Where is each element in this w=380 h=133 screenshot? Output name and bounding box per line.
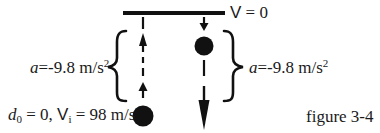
left-acceleration-label: a=-9.8 m/s2 [30,59,109,76]
figure-caption: figure 3-4 [306,108,374,125]
velocity-symbol: V [230,3,241,22]
acceleration-value: =-9.8 m/s [39,58,104,77]
left-brace-icon [108,31,126,101]
right-acceleration-label: a=-9.8 m/s2 [249,59,328,76]
acceleration-symbol: a [249,58,258,77]
velocity-value: = 0 [246,3,268,22]
initial-velocity-symbol: V [57,105,68,124]
initial-velocity-value: = 98 m/s [76,105,136,124]
acceleration-value: =-9.8 m/s [258,58,323,77]
displacement-symbol: d [8,105,17,124]
acceleration-symbol: a [30,58,39,77]
ball-at-launch [133,106,154,127]
figure-3-4-diagram: V = 0 a=-9.8 m/s2 a=-9.8 m/s2 d0 = 0, Vi… [0,0,380,133]
acceleration-exponent: 2 [323,57,329,69]
upward-path [139,17,148,98]
downward-path [199,17,210,130]
initial-velocity-subscript: i [68,113,71,125]
initial-conditions-label: d0 = 0, Vi = 98 m/s [8,106,135,123]
right-brace-icon [224,31,243,101]
top-velocity-label: V = 0 [230,4,268,21]
displacement-value: = 0, [26,105,53,124]
displacement-subscript: 0 [17,113,23,125]
ball-at-apex [195,37,214,56]
acceleration-exponent: 2 [104,57,110,69]
